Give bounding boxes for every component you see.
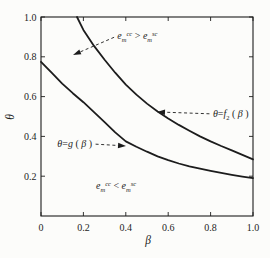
math-part: > <box>132 30 143 41</box>
region-lower-label: emcc < emsc <box>96 180 136 193</box>
math-part: sc <box>131 180 137 187</box>
g-curve-label: θ=g ( β ) <box>57 138 92 150</box>
x-tick-label: 0.4 <box>120 222 133 233</box>
x-axis-label: β <box>144 234 151 247</box>
math-part: < <box>111 180 122 191</box>
line-chart: 00.20.40.60.81.00.20.40.60.81.0 emcc > e… <box>0 0 270 258</box>
math-part: ) <box>86 138 92 150</box>
x-tick-label: 0.2 <box>77 222 90 233</box>
scanned-plot-figure: 00.20.40.60.81.00.20.40.60.81.0 emcc > e… <box>0 0 270 258</box>
region-upper-label: emcc > emsc <box>117 30 157 43</box>
math-part: ( <box>73 138 81 150</box>
x-tick-label: 0 <box>39 222 44 233</box>
math-part: sc <box>152 30 158 37</box>
y-tick-label: 0.2 <box>24 171 37 182</box>
curve-g <box>41 62 253 178</box>
g-curve-label-arrow-line <box>96 144 118 145</box>
f2-curve-label-arrow-line <box>165 112 209 114</box>
y-tick-label: 0.4 <box>24 131 37 142</box>
y-axis-label: θ <box>4 114 16 120</box>
tick-labels: 00.20.40.60.81.00.20.40.60.81.0 <box>24 12 259 233</box>
math-part: ( <box>230 108 238 120</box>
math-part: ) <box>243 108 249 120</box>
g-curve-label-arrowhead <box>118 143 126 148</box>
y-tick-label: 1.0 <box>24 12 37 23</box>
annotations: emcc > emscθ=f2 ( β )θ=g ( β )emcc < ems… <box>57 30 248 193</box>
x-tick-label: 0.6 <box>162 222 175 233</box>
f2-curve-label: θ=f2 ( β ) <box>213 108 249 120</box>
x-tick-label: 1.0 <box>247 222 260 233</box>
y-tick-label: 0.6 <box>24 91 37 102</box>
curve-f2 <box>77 17 253 159</box>
y-tick-label: 0.8 <box>24 51 37 62</box>
x-tick-label: 0.8 <box>204 222 217 233</box>
region-upper-label-arrowhead <box>73 49 81 55</box>
